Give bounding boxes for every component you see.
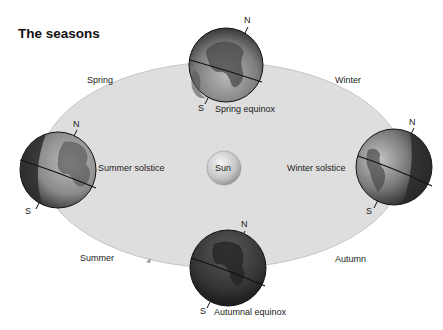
south-label-spring: S bbox=[198, 103, 204, 113]
season-label-spring: Spring bbox=[87, 75, 113, 85]
north-label-summer: N bbox=[73, 119, 80, 129]
south-label-summer: S bbox=[25, 206, 31, 216]
position-label-winter-solstice: Winter solstice bbox=[287, 163, 346, 173]
position-label-summer-solstice: Summer solstice bbox=[98, 163, 165, 173]
south-label-autumn: S bbox=[200, 306, 206, 316]
south-label-winter: S bbox=[366, 206, 372, 216]
north-label-winter: N bbox=[409, 117, 416, 127]
north-label-spring: N bbox=[244, 15, 251, 25]
position-label-spring-equinox: Spring equinox bbox=[215, 104, 275, 114]
page-title: The seasons bbox=[18, 26, 100, 41]
globe-autumnal-equinox bbox=[190, 230, 266, 308]
season-label-autumn: Autumn bbox=[335, 254, 366, 264]
sun-label: Sun bbox=[215, 163, 231, 173]
season-label-summer: Summer bbox=[80, 253, 114, 263]
north-label-autumn: N bbox=[241, 219, 248, 229]
position-label-autumnal-equinox: Autumnal equinox bbox=[214, 307, 286, 317]
season-label-winter: Winter bbox=[335, 75, 361, 85]
